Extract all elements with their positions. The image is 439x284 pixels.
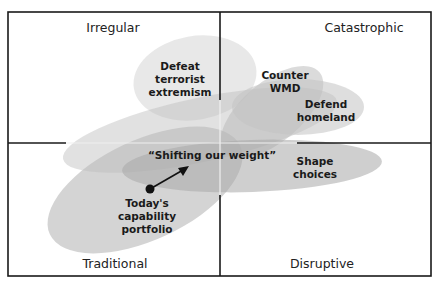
label-line: Today's (125, 197, 169, 209)
label-line: homeland (297, 111, 355, 123)
label-line: capability (118, 210, 176, 222)
label-line: Counter (261, 69, 309, 81)
label-line: WMD (270, 82, 301, 94)
quadrant-label-disruptive: Disruptive (290, 256, 354, 271)
shifting-our-weight-label: “Shifting our weight” (148, 149, 276, 161)
label-line: portfolio (121, 223, 172, 235)
label-line: choices (293, 168, 337, 180)
quadrant-label-traditional: Traditional (81, 256, 147, 271)
label-line: terrorist (155, 73, 205, 85)
quadrant-label-catastrophic: Catastrophic (324, 20, 403, 35)
label-line: extremism (149, 86, 212, 98)
label-defend-homeland: Defend homeland (297, 98, 355, 123)
label-line: Defend (305, 98, 348, 110)
label-line: Defeat (160, 60, 200, 72)
quadrant-diagram: Irregular Catastrophic Traditional Disru… (0, 0, 439, 284)
quadrant-label-irregular: Irregular (86, 20, 140, 35)
label-shape-choices: Shape choices (293, 155, 337, 180)
label-todays-capability-portfolio: Today's capability portfolio (118, 197, 176, 235)
label-line: Shape (297, 155, 334, 167)
